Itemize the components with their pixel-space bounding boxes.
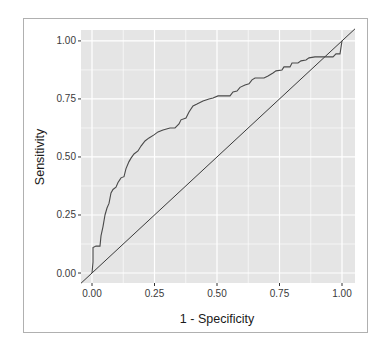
y-tick-label: 0.00 bbox=[57, 268, 77, 279]
x-axis-title: 1 - Specificity bbox=[180, 312, 255, 326]
y-tick-label: 1.00 bbox=[57, 35, 77, 46]
x-tick-label: 0.00 bbox=[82, 288, 102, 299]
y-tick-label: 0.75 bbox=[57, 93, 77, 104]
y-tick-label: 0.50 bbox=[57, 151, 77, 162]
x-tick-label: 0.75 bbox=[270, 288, 290, 299]
x-tick-label: 0.50 bbox=[207, 288, 227, 299]
x-tick-label: 0.25 bbox=[145, 288, 165, 299]
roc-chart: 0.000.250.500.751.00 0.000.250.500.751.0… bbox=[0, 0, 389, 355]
y-axis-title: Sensitivity bbox=[33, 128, 47, 185]
y-tick-label: 0.25 bbox=[57, 209, 77, 220]
x-tick-label: 1.00 bbox=[332, 288, 352, 299]
